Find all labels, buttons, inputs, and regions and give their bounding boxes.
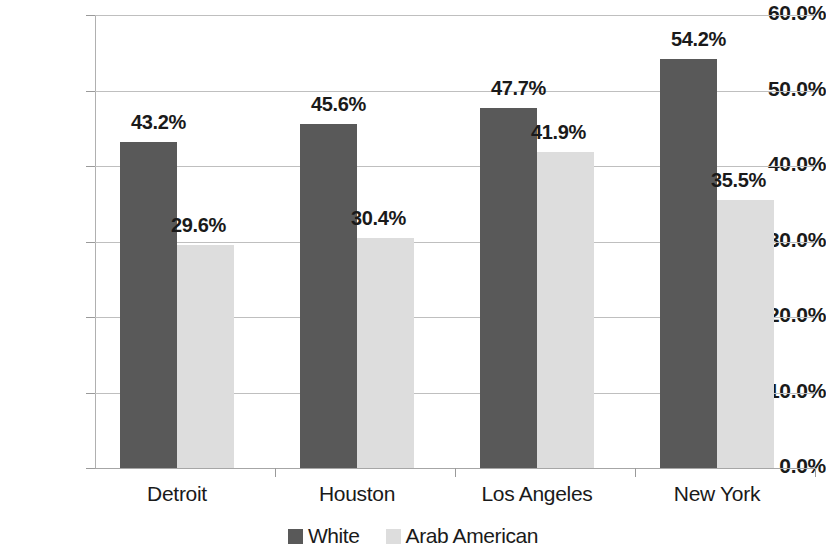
bar-value-label: 35.5% — [697, 169, 780, 192]
y-axis-tick — [86, 91, 95, 92]
bar-houston-white[interactable] — [300, 124, 357, 468]
bar-value-label: 30.4% — [337, 207, 420, 230]
bar-detroit-white[interactable] — [120, 142, 177, 468]
bar-new-york-white[interactable] — [660, 59, 717, 468]
x-axis-label-new-york: New York — [627, 482, 807, 506]
x-axis-label-detroit: Detroit — [87, 482, 267, 506]
bar-detroit-arab-american[interactable] — [177, 245, 234, 468]
bar-value-label: 41.9% — [517, 121, 600, 144]
bar-los-angeles-arab-american[interactable] — [537, 152, 594, 468]
gridline — [95, 15, 815, 16]
y-axis-tick — [86, 317, 95, 318]
bar-los-angeles-white[interactable] — [480, 108, 537, 468]
y-axis-tick — [86, 242, 95, 243]
x-axis-tick — [455, 468, 456, 477]
legend-swatch-icon — [386, 529, 401, 544]
bar-chart: 0.0%10.0%20.0%30.0%40.0%50.0%60.0% 43.2%… — [0, 0, 826, 556]
bar-new-york-arab-american[interactable] — [717, 200, 774, 468]
x-axis-label-los-angeles: Los Angeles — [447, 482, 627, 506]
bar-value-label: 45.6% — [297, 93, 380, 116]
legend-label: White — [308, 524, 360, 548]
bar-value-label: 43.2% — [117, 111, 200, 134]
legend-item-arab-american[interactable]: Arab American — [386, 524, 539, 548]
chart-legend: WhiteArab American — [0, 524, 826, 548]
bar-value-label: 47.7% — [477, 77, 560, 100]
x-axis-label-houston: Houston — [267, 482, 447, 506]
x-axis-tick — [275, 468, 276, 477]
x-axis-tick — [635, 468, 636, 477]
y-axis-tick — [86, 15, 95, 16]
bar-value-label: 29.6% — [157, 214, 240, 237]
plot-area: 43.2%29.6%45.6%30.4%47.7%41.9%54.2%35.5% — [95, 15, 815, 468]
bar-houston-arab-american[interactable] — [357, 238, 414, 468]
y-axis-tick — [86, 468, 95, 469]
legend-item-white[interactable]: White — [288, 524, 360, 548]
bar-value-label: 54.2% — [657, 28, 740, 51]
y-axis-tick — [86, 393, 95, 394]
legend-swatch-icon — [288, 529, 303, 544]
x-axis-tick — [815, 468, 816, 477]
legend-label: Arab American — [406, 524, 539, 548]
y-axis-tick — [86, 166, 95, 167]
